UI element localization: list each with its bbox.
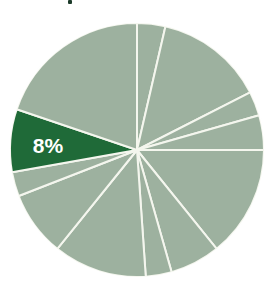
pie-chart: 8% xyxy=(0,0,270,283)
highlight-slice-label: 8% xyxy=(33,134,64,157)
